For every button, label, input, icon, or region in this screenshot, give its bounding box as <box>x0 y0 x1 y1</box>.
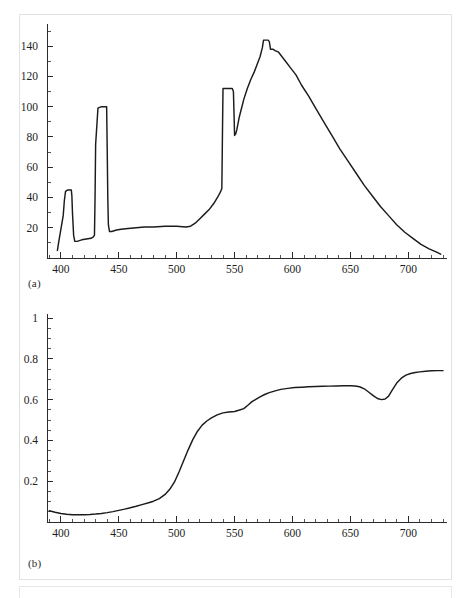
y-tick-label: 0.6 <box>24 394 39 406</box>
y-tick-label: 60 <box>27 161 39 173</box>
x-tick-label: 450 <box>110 263 128 275</box>
y-tick-label: 80 <box>27 131 39 143</box>
figure-page: 40045050055060065070020406080100120140 (… <box>0 0 472 598</box>
x-tick-label: 500 <box>168 263 186 275</box>
y-tick-label: 40 <box>27 191 39 203</box>
x-tick-label: 700 <box>400 527 418 539</box>
y-tick-label: 1 <box>32 312 38 324</box>
panel-label-b: (b) <box>28 557 41 569</box>
y-tick-label: 140 <box>21 40 39 52</box>
chart-panel-a: 40045050055060065070020406080100120140 <box>0 14 460 290</box>
x-tick-label: 450 <box>110 527 128 539</box>
x-tick-label: 500 <box>168 527 186 539</box>
page-border-frame-lower <box>19 586 452 598</box>
x-tick-label: 600 <box>284 263 302 275</box>
x-tick-label: 700 <box>400 263 418 275</box>
chart-panel-b: 4004505005506006507000.20.40.60.81 <box>0 296 460 580</box>
x-tick-label: 600 <box>284 527 302 539</box>
y-tick-label: 0.8 <box>24 353 39 365</box>
x-tick-label: 650 <box>342 527 360 539</box>
x-tick-label: 550 <box>226 527 244 539</box>
x-tick-label: 400 <box>52 527 70 539</box>
y-tick-label: 100 <box>21 101 39 113</box>
x-tick-label: 650 <box>342 263 360 275</box>
chart-b-svg: 4004505005506006507000.20.40.60.81 <box>0 296 460 580</box>
data-curve <box>49 371 443 515</box>
data-curve <box>57 40 440 254</box>
chart-a-svg: 40045050055060065070020406080100120140 <box>0 14 460 290</box>
x-tick-label: 400 <box>52 263 70 275</box>
y-tick-label: 0.4 <box>24 434 39 446</box>
y-tick-label: 0.2 <box>24 475 39 487</box>
x-tick-label: 550 <box>226 263 244 275</box>
y-tick-label: 20 <box>27 222 39 234</box>
panel-label-a: (a) <box>28 277 41 289</box>
y-tick-label: 120 <box>21 70 39 82</box>
